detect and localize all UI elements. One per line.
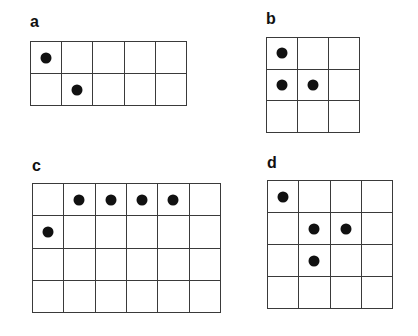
grid-cell xyxy=(33,281,64,313)
grid-cell xyxy=(64,216,95,248)
grid-cell xyxy=(127,249,158,281)
grid-cell xyxy=(299,245,330,277)
grid-cell xyxy=(96,281,127,313)
grid-b xyxy=(266,37,360,133)
grid-cell xyxy=(190,249,221,281)
grid-cell xyxy=(64,184,95,216)
dot-marker xyxy=(308,79,319,90)
dot-marker xyxy=(105,194,116,205)
dot-marker xyxy=(74,194,85,205)
grid-d xyxy=(267,180,393,309)
grid-cell xyxy=(362,213,393,245)
grid-cell xyxy=(127,216,158,248)
grid-cell xyxy=(33,216,64,248)
grid-cell xyxy=(96,249,127,281)
dot-marker xyxy=(277,79,288,90)
panel-label-a: a xyxy=(30,14,39,30)
grid-cell xyxy=(190,281,221,313)
grid-a xyxy=(30,41,187,106)
grid-cell xyxy=(127,281,158,313)
dot-marker xyxy=(168,194,179,205)
dot-marker xyxy=(277,48,288,59)
grid-cell xyxy=(125,74,156,106)
grid-cell xyxy=(190,216,221,248)
grid-c xyxy=(32,183,221,313)
grid-cell xyxy=(93,42,124,74)
grid-cell xyxy=(329,38,360,70)
grid-cell xyxy=(31,74,62,106)
grid-cell xyxy=(267,101,298,133)
dot-marker xyxy=(340,223,351,234)
grid-cell xyxy=(267,70,298,102)
dot-marker xyxy=(309,255,320,266)
grid-cell xyxy=(96,184,127,216)
grid-cell xyxy=(33,249,64,281)
grid-cell xyxy=(298,70,329,102)
grid-cell xyxy=(158,249,189,281)
dot-marker xyxy=(309,223,320,234)
grid-cell xyxy=(127,184,158,216)
grid-cell xyxy=(62,42,93,74)
grid-cell xyxy=(299,277,330,309)
grid-cell xyxy=(158,281,189,313)
grid-cell xyxy=(33,184,64,216)
grid-cell xyxy=(298,38,329,70)
grid-cell xyxy=(267,38,298,70)
grid-cell xyxy=(64,249,95,281)
dot-marker xyxy=(137,194,148,205)
panel-label-b: b xyxy=(266,11,276,27)
grid-cell xyxy=(362,181,393,213)
grid-cell xyxy=(93,74,124,106)
dot-marker xyxy=(72,84,83,95)
grid-cell xyxy=(158,184,189,216)
grid-cell xyxy=(156,42,187,74)
dot-marker xyxy=(43,226,54,237)
dot-marker xyxy=(41,52,52,63)
grid-cell xyxy=(268,213,299,245)
grid-cell xyxy=(362,277,393,309)
panel-label-d: d xyxy=(267,155,277,171)
grid-cell xyxy=(362,245,393,277)
grid-cell xyxy=(158,216,189,248)
grid-cell xyxy=(329,70,360,102)
grid-cell xyxy=(331,277,362,309)
dot-marker xyxy=(278,191,289,202)
grid-cell xyxy=(331,181,362,213)
grid-cell xyxy=(31,42,62,74)
grid-cell xyxy=(190,184,221,216)
grid-cell xyxy=(298,101,329,133)
grid-cell xyxy=(268,181,299,213)
grid-cell xyxy=(268,277,299,309)
grid-cell xyxy=(156,74,187,106)
grid-cell xyxy=(299,213,330,245)
grid-cell xyxy=(96,216,127,248)
grid-cell xyxy=(125,42,156,74)
panel-label-c: c xyxy=(32,158,41,174)
grid-cell xyxy=(299,181,330,213)
grid-cell xyxy=(329,101,360,133)
grid-cell xyxy=(62,74,93,106)
grid-cell xyxy=(331,245,362,277)
grid-cell xyxy=(268,245,299,277)
grid-cell xyxy=(64,281,95,313)
grid-cell xyxy=(331,213,362,245)
